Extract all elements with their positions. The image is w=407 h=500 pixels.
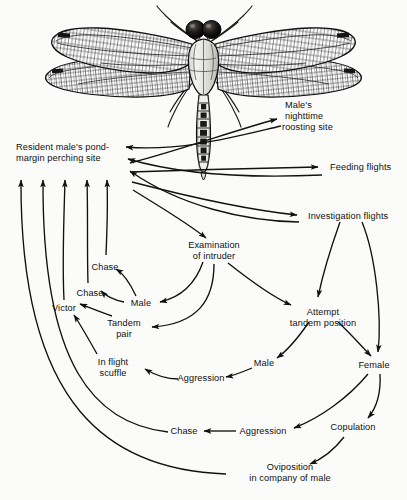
- edge-examination-to-tandem-pair: [152, 264, 214, 327]
- node-label-attempt-line2: tandem position: [290, 318, 356, 329]
- edge-female-to-copulation: [368, 374, 380, 418]
- node-label-victor: Victor: [52, 303, 76, 314]
- node-label-scuffle-line2: scuffle: [99, 368, 126, 379]
- edge-aggression-to-scuffle: [145, 369, 178, 379]
- dragonfly-abdomen: [197, 95, 211, 180]
- node-label-female: Female: [358, 360, 389, 371]
- dragonfly-thorax: [188, 39, 218, 96]
- edge-tandem-pair-to-victor: [80, 304, 112, 316]
- node-label-oviposition: Oviposition: [267, 462, 314, 473]
- node-label-chase-upper: Chase: [91, 262, 118, 273]
- node-label-chase-bottom: Chase: [170, 426, 197, 437]
- edge-male-to-aggression-upper: [226, 368, 252, 377]
- edge-male-to-chase-upper: [116, 269, 136, 296]
- figure-canvas: Resident male's pond- margin perching si…: [0, 0, 407, 500]
- node-label-oviposition-line2: in company of male: [249, 473, 330, 484]
- edge-layer: [21, 119, 380, 474]
- edge-investigation-to-attempt: [318, 222, 340, 297]
- node-label-perching: Resident male's pond-: [16, 142, 109, 153]
- edge-investigation-to-female: [362, 222, 379, 352]
- node-label-examination: Examination: [188, 240, 240, 251]
- edge-chase-lower-to-perching: [87, 180, 88, 283]
- node-label-chase-lower: Chase: [76, 288, 103, 299]
- node-label-scuffle: In flight: [98, 357, 129, 368]
- node-label-tandem-pair-line2: pair: [116, 329, 132, 340]
- node-label-examination-line2: of intruder: [193, 251, 235, 262]
- node-label-copulation: Copulation: [331, 422, 376, 433]
- node-label-aggression-upper: Aggression: [178, 373, 225, 384]
- edge-scuffle-to-victor: [74, 315, 97, 354]
- edge-male-to-chase-lower: [101, 291, 124, 302]
- node-label-roosting: Male's: [285, 100, 312, 111]
- node-label-feeding-flights: Feeding flights: [330, 162, 391, 173]
- node-label-attempt: Attempt: [307, 307, 339, 318]
- node-label-male-lower: Male: [254, 358, 274, 369]
- edge-victor-to-perching: [63, 180, 65, 300]
- edge-chase-upper-to-perching: [106, 180, 107, 255]
- edge-investigation-to-perching: [130, 171, 299, 222]
- node-label-roosting-line3: roosting site: [282, 122, 333, 133]
- node-label-tandem-pair: Tandem: [107, 318, 140, 329]
- node-label-perching-line2: margin perching site: [16, 153, 101, 164]
- edge-female-to-aggression-lower: [294, 374, 368, 428]
- node-label-investigation-flights: Investigation flights: [308, 211, 388, 222]
- edge-examination-to-male: [160, 262, 203, 302]
- edge-copulation-to-oviposition: [310, 437, 344, 464]
- node-label-aggression-lower: Aggression: [240, 426, 287, 437]
- node-label-male-upper: Male: [131, 298, 151, 309]
- edge-examination-to-attempt: [228, 263, 291, 305]
- node-label-roosting-line2: nighttime: [285, 111, 323, 122]
- edge-perching-to-feeding: [130, 167, 318, 172]
